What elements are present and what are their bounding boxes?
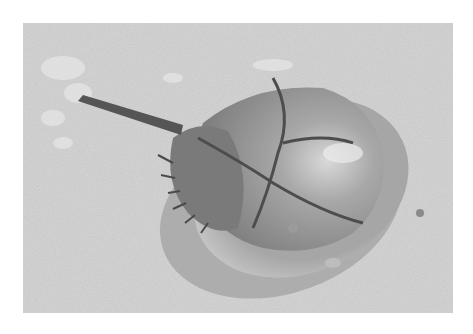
photo-illustration (23, 23, 453, 313)
horseshoe-crab-photo (23, 23, 453, 313)
